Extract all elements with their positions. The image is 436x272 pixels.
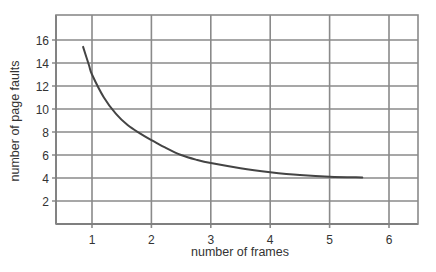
y-tick-label: 4 xyxy=(42,172,49,186)
grid-lines xyxy=(52,15,418,228)
page-faults-chart: 246810121416 123456 number of frames num… xyxy=(0,0,436,272)
x-tick-label: 2 xyxy=(148,233,155,247)
y-tick-label: 12 xyxy=(36,80,50,94)
page-faults-curve xyxy=(83,47,362,178)
x-axis-label: number of frames xyxy=(191,245,289,259)
y-tick-label: 10 xyxy=(36,103,50,117)
y-axis-label: number of page faults xyxy=(8,61,22,182)
plot-frame xyxy=(56,15,418,224)
y-tick-label: 8 xyxy=(42,126,49,140)
y-tick-label: 14 xyxy=(36,57,50,71)
x-tick-label: 5 xyxy=(326,233,333,247)
y-tick-label: 16 xyxy=(36,34,50,48)
x-tick-label: 1 xyxy=(89,233,96,247)
x-tick-label: 6 xyxy=(386,233,393,247)
y-tick-label: 6 xyxy=(42,149,49,163)
y-tick-label: 2 xyxy=(42,195,49,209)
y-axis-ticks: 246810121416 xyxy=(36,34,50,209)
